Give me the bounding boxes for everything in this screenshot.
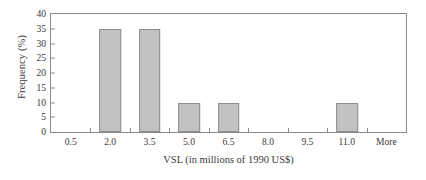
x-tick-label: 0.5 — [65, 132, 77, 147]
x-tick-label: 6.5 — [223, 132, 235, 147]
x-tick-mark — [248, 128, 249, 132]
x-axis-title: VSL (in millions of 1990 US$) — [50, 154, 407, 165]
y-tick-label: 0 — [41, 127, 51, 137]
y-tick-mark — [51, 102, 55, 103]
x-tick-mark — [169, 128, 170, 132]
x-tick-mark — [288, 128, 289, 132]
x-tick-label: 2.0 — [104, 132, 116, 147]
y-tick-label: 30 — [36, 39, 51, 49]
x-tick-label: 9.5 — [301, 132, 313, 147]
y-tick-mark — [51, 28, 55, 29]
y-tick-label: 40 — [36, 9, 51, 19]
histogram-figure: Frequency (%) 05101520253035400.52.03.55… — [0, 0, 426, 180]
y-tick-label: 20 — [36, 68, 51, 78]
x-tick-label: 11.0 — [339, 132, 355, 147]
x-tick-label: 5.0 — [183, 132, 195, 147]
x-tick-mark — [209, 128, 210, 132]
y-tick-label: 15 — [36, 83, 51, 93]
y-tick-mark — [51, 117, 55, 118]
x-tick-mark — [367, 128, 368, 132]
bar — [336, 103, 358, 133]
y-tick-mark — [51, 73, 55, 74]
y-axis-title: Frequency (%) — [16, 2, 30, 132]
y-tick-label: 10 — [36, 98, 51, 108]
bar — [99, 29, 121, 132]
y-tick-label: 35 — [36, 24, 51, 34]
plot-area: 05101520253035400.52.03.55.06.58.09.511.… — [50, 13, 407, 133]
bar — [218, 103, 240, 133]
x-tick-label: 3.5 — [144, 132, 156, 147]
y-tick-label: 5 — [41, 112, 51, 122]
y-tick-label: 25 — [36, 53, 51, 63]
y-tick-mark — [51, 43, 55, 44]
y-tick-mark — [51, 87, 55, 88]
x-tick-mark — [130, 128, 131, 132]
x-tick-label: 8.0 — [262, 132, 274, 147]
y-tick-mark — [51, 58, 55, 59]
x-tick-mark — [327, 128, 328, 132]
x-tick-label: More — [376, 132, 397, 147]
bar — [178, 103, 200, 133]
x-tick-mark — [90, 128, 91, 132]
bar — [139, 29, 161, 132]
